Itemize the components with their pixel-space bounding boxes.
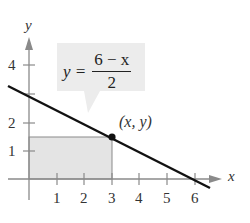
y-tick-label-2: 2 xyxy=(8,116,16,131)
point-marker xyxy=(108,133,115,140)
y-axis-arrow-icon xyxy=(25,37,33,50)
x-tick-label-2: 2 xyxy=(80,191,88,206)
equation-lhs: y = xyxy=(63,62,86,82)
shaded-rectangle xyxy=(29,137,112,179)
point-label: (x, y) xyxy=(119,114,152,130)
x-tick-label-4: 4 xyxy=(135,191,143,206)
x-axis-label: x xyxy=(228,169,235,184)
y-tick-label-4: 4 xyxy=(8,58,16,73)
x-axis-arrow-icon xyxy=(209,175,222,183)
y-axis-label: y xyxy=(25,18,32,33)
equation-label: y = 6 − x 2 xyxy=(63,50,131,93)
equation-denominator: 2 xyxy=(108,72,117,93)
x-tick-label-3: 3 xyxy=(108,191,116,206)
x-tick-label-5: 5 xyxy=(163,191,171,206)
equation-fraction: 6 − x 2 xyxy=(92,50,131,93)
plot-canvas xyxy=(0,0,250,223)
callout-tail xyxy=(84,91,100,113)
y-tick-label-1: 1 xyxy=(8,144,16,159)
x-tick-label-1: 1 xyxy=(53,191,61,206)
equation-numerator: 6 − x xyxy=(92,50,131,72)
figure: y = 6 − x 2 y x 1 2 3 4 5 6 1 2 4 (x, y) xyxy=(0,0,250,223)
x-tick-label-6: 6 xyxy=(191,191,199,206)
